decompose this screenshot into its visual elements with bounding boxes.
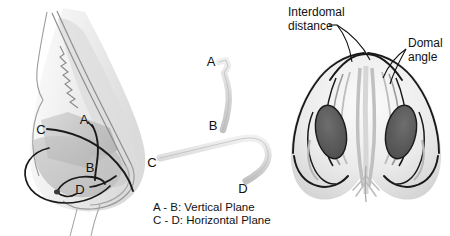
callout-interdomal-line2: distance (288, 19, 333, 33)
strip-label-a: A (207, 54, 216, 69)
footplate-marker (54, 190, 60, 195)
callout-domal-line2: angle (408, 50, 438, 64)
illustration-figure: A B C D A B C D A - B: Vertical Plane C … (0, 0, 450, 236)
legend-line-vertical: A - B: Vertical Plane (153, 201, 255, 213)
strip-label-b: B (209, 118, 218, 133)
strip-label-c: C (147, 155, 156, 170)
strip-label-d: D (238, 181, 247, 196)
profile-label-a: A (80, 112, 89, 127)
profile-label-c: C (36, 122, 45, 137)
callout-domal-line1: Domal (408, 36, 443, 50)
callout-interdomal-line1: Interdomal (288, 5, 345, 19)
legend-line-horizontal: C - D: Horizontal Plane (153, 214, 271, 226)
figure-canvas: A B C D A B C D A - B: Vertical Plane C … (0, 0, 450, 236)
columella-midline (365, 166, 366, 202)
legend: A - B: Vertical Plane C - D: Horizontal … (153, 201, 271, 226)
profile-label-d: D (75, 182, 84, 197)
profile-label-b: B (86, 160, 95, 175)
